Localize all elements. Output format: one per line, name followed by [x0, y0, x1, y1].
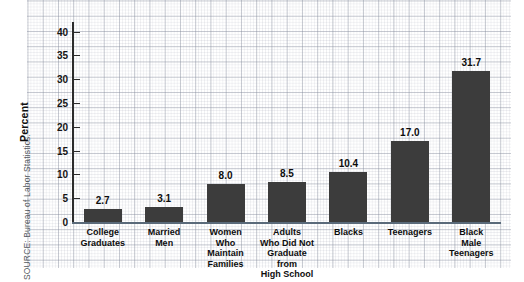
bar-group[interactable]: 8.5AdultsWho Did NotGraduate fromHigh Sc…: [256, 22, 317, 222]
bar-value-label: 8.5: [280, 168, 294, 179]
x-axis-category-line: Adults: [258, 227, 316, 238]
bar-value-label: 17.0: [400, 127, 419, 138]
bar-value-label: 3.1: [157, 193, 171, 204]
bar[interactable]: [145, 207, 183, 222]
x-axis-category-label: WomenWhoMaintainFamilies: [197, 227, 255, 269]
y-tick-label: 0: [62, 217, 68, 228]
x-axis-category-line: High School: [258, 269, 316, 280]
x-axis-category-line: Who: [197, 238, 255, 249]
bar-group[interactable]: 8.0WomenWhoMaintainFamilies: [195, 22, 256, 222]
x-axis-category-line: College: [74, 227, 132, 238]
x-axis-category-line: Men: [135, 238, 193, 249]
x-axis-category-label: Blacks: [319, 227, 377, 238]
y-tick-label: 5: [62, 193, 68, 204]
bar-value-label: 31.7: [462, 57, 481, 68]
bar[interactable]: [452, 71, 490, 222]
x-axis-category-label: CollegeGraduates: [74, 227, 132, 248]
bar-group[interactable]: 10.4Blacks: [318, 22, 379, 222]
x-axis-category-label: AdultsWho Did NotGraduate fromHigh Schoo…: [258, 227, 316, 280]
y-tick-label: 15: [57, 145, 68, 156]
bar[interactable]: [84, 209, 122, 222]
y-tick-label: 25: [57, 97, 68, 108]
bar[interactable]: [207, 184, 245, 222]
x-axis-category-line: Graduates: [74, 238, 132, 249]
x-axis-category-label: MarriedMen: [135, 227, 193, 248]
y-tick-label: 35: [57, 50, 68, 61]
x-axis-category-line: Who Did Not: [258, 238, 316, 249]
x-axis-line: [72, 222, 501, 224]
x-axis-category-line: Teenagers: [442, 248, 500, 259]
plot-area: Percent 0510152025303540 2.7CollegeGradu…: [72, 22, 502, 222]
bar-value-label: 8.0: [219, 170, 233, 181]
x-axis-category-line: Black: [442, 227, 500, 238]
y-tick-label: 30: [57, 74, 68, 85]
y-tick-label: 20: [57, 121, 68, 132]
x-axis-category-line: Graduate from: [258, 248, 316, 269]
chart-page: SOURCE: Bureau of Labor Statistics. Perc…: [0, 0, 524, 282]
bar-group[interactable]: 2.7CollegeGraduates: [72, 22, 133, 222]
bar-value-label: 2.7: [96, 195, 110, 206]
x-axis-category-line: Married: [135, 227, 193, 238]
y-tick-label: 10: [57, 169, 68, 180]
x-axis-category-line: Male: [442, 238, 500, 249]
x-axis-category-label: BlackMaleTeenagers: [442, 227, 500, 259]
bar-group[interactable]: 17.0Teenagers: [379, 22, 440, 222]
bar-group[interactable]: 3.1MarriedMen: [133, 22, 194, 222]
x-axis-category-label: Teenagers: [381, 227, 439, 238]
bar[interactable]: [391, 141, 429, 222]
bar-group[interactable]: 31.7BlackMaleTeenagers: [441, 22, 502, 222]
x-axis-category-line: Teenagers: [381, 227, 439, 238]
x-axis-category-line: Blacks: [319, 227, 377, 238]
x-axis-category-line: Maintain: [197, 248, 255, 259]
bar[interactable]: [329, 172, 367, 222]
y-tick-label: 40: [57, 26, 68, 37]
x-axis-category-line: Women: [197, 227, 255, 238]
bar[interactable]: [268, 182, 306, 222]
x-axis-category-line: Families: [197, 259, 255, 270]
bar-value-label: 10.4: [339, 158, 358, 169]
y-axis-title: Percent: [18, 102, 30, 142]
